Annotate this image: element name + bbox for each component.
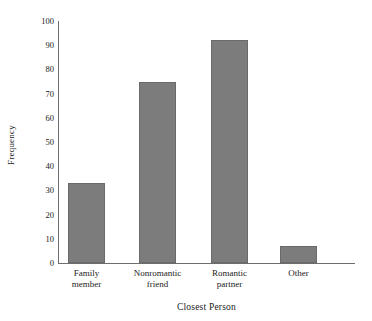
- bar[interactable]: [139, 82, 176, 264]
- bar[interactable]: [280, 246, 317, 263]
- y-axis-title: Frequency: [6, 105, 16, 185]
- x-axis-category-label: Other: [256, 268, 342, 279]
- bar-chart-figure: Frequency 0102030405060708090100 Closest…: [0, 0, 372, 321]
- cropped-title-sliver: [95, 0, 285, 2]
- y-axis-tick-label: 40: [30, 162, 54, 171]
- y-axis-tick-label: 50: [30, 138, 54, 147]
- y-axis-tick-label: 60: [30, 113, 54, 122]
- y-axis-tick-label: 0: [30, 259, 54, 268]
- y-axis-tick-label: 80: [30, 65, 54, 74]
- bar[interactable]: [68, 183, 105, 263]
- y-axis-tick-label: 100: [30, 17, 54, 26]
- y-axis-tick-label: 10: [30, 234, 54, 243]
- y-axis-tick-label: 90: [30, 41, 54, 50]
- bar[interactable]: [211, 40, 248, 263]
- y-axis-tick-label: 30: [30, 186, 54, 195]
- x-axis-title: Closest Person: [58, 302, 355, 312]
- y-axis-tick-label: 20: [30, 210, 54, 219]
- y-axis-tick-label: 70: [30, 89, 54, 98]
